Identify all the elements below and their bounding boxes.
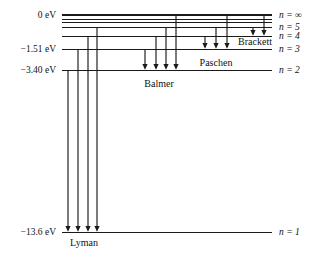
arrowhead-lyman-n4-to-n1 [85, 226, 90, 232]
quantum-number-label-n3: n = 3 [279, 44, 300, 54]
transitions-group [65, 15, 266, 232]
series-label-paschen: Paschen [200, 57, 233, 68]
quantum-number-label-n1: n = 1 [279, 227, 300, 237]
arrowhead-balmer-n3-to-n2 [142, 64, 147, 70]
arrowhead-paschen-n5-to-n3 [213, 43, 218, 49]
arrowhead-balmer-n4-to-n2 [153, 64, 158, 70]
arrowhead-lyman-n2-to-n1 [65, 226, 70, 232]
arrowhead-paschen-n4-to-n3 [202, 43, 207, 49]
quantum-number-labels-group: n = 1n = 2n = 3n = 4n = 5n = ∞ [279, 10, 302, 237]
arrowhead-balmer-n5-to-n2 [163, 64, 168, 70]
energy-level-diagram: −13.6 eV−3.40 eV−1.51 eV0 eV n = 1n = 2n… [0, 0, 314, 258]
series-label-lyman: Lyman [70, 237, 98, 248]
energy-label-n3: −1.51 eV [21, 44, 57, 54]
energy-label-ninf: 0 eV [38, 10, 56, 20]
energy-level-svg: −13.6 eV−3.40 eV−1.51 eV0 eV n = 1n = 2n… [0, 0, 314, 258]
energy-label-n1: −13.6 eV [21, 227, 57, 237]
quantum-number-label-ninf: n = ∞ [279, 10, 302, 20]
series-label-brackett: Brackett [238, 36, 272, 47]
quantum-number-label-n4: n = 4 [279, 31, 300, 41]
arrowhead-brackett-ninf-to-n4 [261, 30, 266, 36]
series-label-balmer: Balmer [144, 78, 174, 89]
arrowhead-balmer-ninf-to-n2 [173, 64, 178, 70]
arrowhead-brackett-n5-to-n4 [250, 30, 255, 36]
energy-levels-group [62, 15, 272, 232]
energy-label-n2: −3.40 eV [21, 65, 57, 75]
arrowhead-lyman-n5-to-n1 [94, 226, 99, 232]
energy-value-labels-group: −13.6 eV−3.40 eV−1.51 eV0 eV [21, 10, 57, 237]
quantum-number-label-n5: n = 5 [279, 22, 300, 32]
quantum-number-label-n2: n = 2 [279, 65, 300, 75]
arrowhead-lyman-n3-to-n1 [75, 226, 80, 232]
series-labels-group: LymanBalmerPaschenBrackett [70, 36, 272, 248]
arrowhead-paschen-ninf-to-n3 [224, 43, 229, 49]
